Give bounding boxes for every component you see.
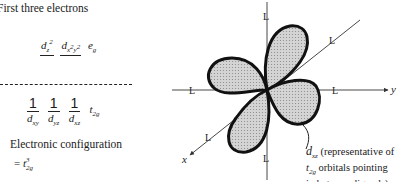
orbital-lobes xyxy=(208,26,319,152)
orbital-name: dxz xyxy=(306,146,318,157)
ligand-top: L xyxy=(263,11,269,22)
x-axis-label: x xyxy=(181,153,187,165)
ligand-lower-diagonal: L xyxy=(205,132,211,143)
ligand-right: L xyxy=(332,85,338,96)
orbital-caption: dxz (representative of t2g orbitals poin… xyxy=(306,145,394,182)
ligand-bottom: L xyxy=(263,153,269,164)
ligand-left: L xyxy=(189,85,195,96)
lobe-lower-left xyxy=(229,90,269,152)
lobe-lower-right xyxy=(267,80,319,124)
ligand-upper-diagonal: L xyxy=(329,35,335,46)
y-axis-label: y xyxy=(390,83,396,95)
lobe-upper-left xyxy=(208,58,267,93)
